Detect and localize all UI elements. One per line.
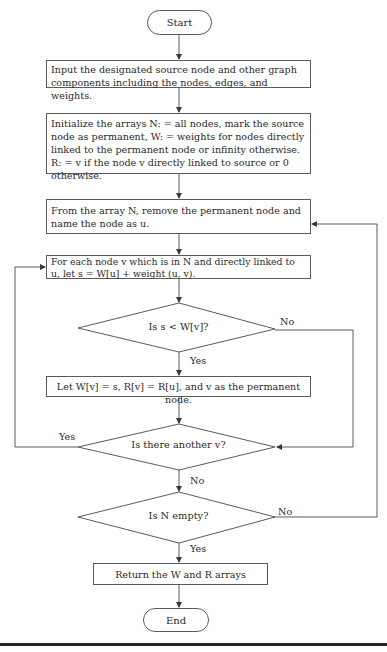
step-update-text: Let W[v] = s, R[v] = R[u], and v as the … [47, 377, 310, 409]
decision-empty-text: Is N empty? [80, 510, 277, 521]
start-label: Start [167, 17, 193, 28]
decision-compare-yes-label: Yes [190, 355, 206, 366]
end-label: End [166, 615, 186, 626]
step-input: Input the designated source node and oth… [46, 60, 311, 88]
step-remove: From the array N, remove the permanent n… [46, 199, 311, 234]
decision-compare-text: Is s < W[v]? [80, 321, 277, 332]
decision-another-yes-label: Yes [59, 431, 75, 442]
decision-empty-no-label: No [278, 506, 292, 517]
step-initialize-text: Initialize the arrays N: = all nodes, ma… [47, 114, 310, 185]
decision-compare-no-label: No [280, 316, 294, 327]
decision-empty-yes-label: Yes [190, 543, 206, 554]
step-for-each: For each node v which is in N and direct… [46, 255, 311, 279]
step-update: Let W[v] = s, R[v] = R[u], and v as the … [46, 376, 311, 397]
step-return: Return the W and R arrays [93, 563, 268, 585]
bottom-rule [0, 643, 387, 646]
start-terminal: Start [147, 10, 212, 35]
step-remove-text: From the array N, remove the permanent n… [47, 200, 310, 234]
decision-another-no-label: No [190, 475, 204, 486]
step-return-text: Return the W and R arrays [94, 564, 267, 585]
step-input-text: Input the designated source node and oth… [47, 61, 310, 104]
step-initialize: Initialize the arrays N: = all nodes, ma… [46, 113, 311, 174]
end-terminal: End [143, 608, 209, 632]
step-for-each-text: For each node v which is in N and direct… [47, 256, 310, 279]
decision-another-text: Is there another v? [80, 439, 277, 450]
